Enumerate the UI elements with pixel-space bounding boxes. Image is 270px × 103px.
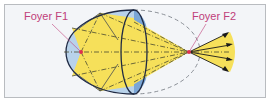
focus-point-f2 xyxy=(187,50,191,54)
focus-label-f1: Foyer F1 xyxy=(24,10,68,22)
focus-point-f1 xyxy=(79,50,83,54)
focus-label-f2: Foyer F2 xyxy=(192,10,236,22)
